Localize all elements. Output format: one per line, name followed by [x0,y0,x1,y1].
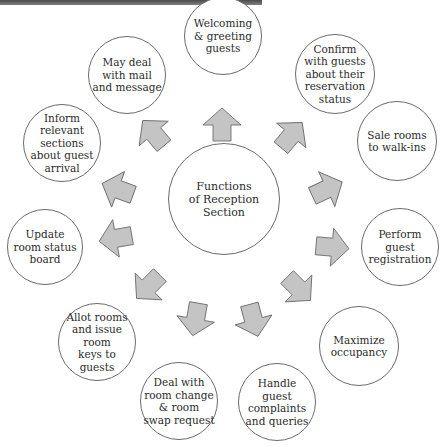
arrow-to-inform-icon [96,166,140,213]
node-maximize: Maximize occupancy [319,306,399,386]
node-label: Welcoming & greeting guests [194,17,253,55]
node-label: Allot rooms and issue room keys to guest… [66,311,127,374]
center-node: Functions of Reception Section [168,143,280,255]
arrow-to-deal-icon [174,300,217,339]
node-label: Handle guest complaints and queries [246,377,309,427]
arrow-to-sale-icon [304,165,350,213]
arrow-to-update-icon [96,217,135,260]
node-perform: Perform guest registration [361,208,439,286]
node-label: Update room status board [13,228,76,266]
node-inform: Inform relevant sections about guest arr… [23,104,101,182]
node-update: Update room status board [7,209,83,285]
node-label: Maximize occupancy [331,334,387,359]
arrow-to-mail-icon [128,108,178,158]
arrow-to-handle-icon [231,300,276,342]
arrow-to-confirm-icon [266,110,316,160]
node-label: Confirm with guests about their reservat… [304,43,365,106]
arrow-to-maximize-icon [274,264,324,314]
node-deal: Deal with room change & room swap reques… [140,362,218,440]
node-mail: May deal with mail and message [88,36,166,114]
arrow-to-allot-icon [123,262,173,312]
node-sale: Sale rooms to walk-ins [357,101,437,181]
center-label: Functions of Reception Section [189,180,259,219]
node-label: Sale rooms to walk-ins [367,129,426,154]
node-label: Inform relevant sections about guest arr… [31,112,94,175]
node-handle: Handle guest complaints and queries [238,363,316,441]
node-welcoming: Welcoming & greeting guests [184,0,262,75]
arrow-to-perform-icon [314,227,350,268]
node-label: May deal with mail and message [92,56,161,94]
node-allot: Allot rooms and issue room keys to guest… [58,303,136,381]
node-confirm: Confirm with guests about their reservat… [295,34,375,114]
arrow-to-welcoming-icon [203,108,241,141]
node-label: Deal with room change & room swap reques… [143,376,214,426]
node-label: Perform guest registration [369,228,432,266]
